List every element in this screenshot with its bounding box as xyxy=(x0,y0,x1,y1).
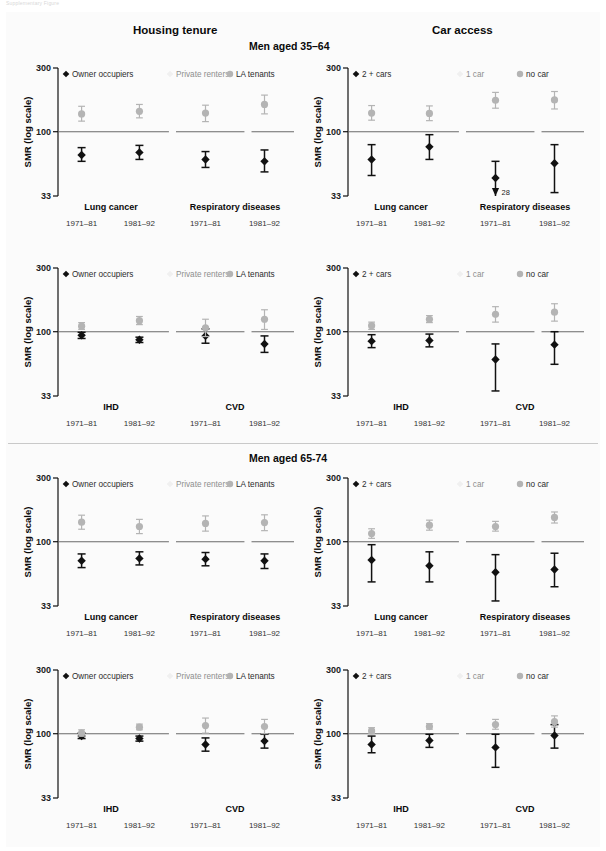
marker-circle xyxy=(261,316,268,323)
marker-circle xyxy=(261,101,268,108)
marker-diamond xyxy=(367,155,375,163)
legend-marker-diamond xyxy=(63,71,70,78)
period-label: 1971–81 xyxy=(480,629,512,638)
group-label: Respiratory diseases xyxy=(480,612,571,622)
period-label: 1981–92 xyxy=(539,419,571,428)
data-point-group xyxy=(261,719,268,733)
marker-circle xyxy=(78,519,85,526)
legend-marker-circle xyxy=(517,673,523,679)
data-point-group xyxy=(260,150,268,172)
period-label: 1981–92 xyxy=(124,419,156,428)
marker-diamond xyxy=(135,148,143,156)
marker-diamond xyxy=(491,743,499,751)
marker-circle xyxy=(492,721,499,728)
data-point-group xyxy=(136,104,143,117)
y-tick-label: 300 xyxy=(326,473,341,483)
data-point-group xyxy=(551,304,558,321)
marker-diamond xyxy=(550,565,558,573)
y-tick-label: 33 xyxy=(41,191,51,201)
data-point-group xyxy=(368,529,375,539)
age-group-title-35-64: Men aged 35–64 xyxy=(249,40,330,52)
marker-circle xyxy=(492,97,499,104)
period-label: 1971–81 xyxy=(66,219,98,228)
y-tick-label: 100 xyxy=(326,127,341,137)
data-point-group xyxy=(261,310,268,330)
period-label: 1971–81 xyxy=(480,419,512,428)
marker-circle xyxy=(136,108,143,115)
group-label: Respiratory diseases xyxy=(190,612,281,622)
data-point-group xyxy=(135,145,143,159)
data-point-group xyxy=(551,716,558,727)
marker-diamond xyxy=(135,554,143,562)
data-point-group xyxy=(492,307,499,322)
marker-diamond xyxy=(550,340,558,348)
legend-marker-diamond xyxy=(63,481,70,488)
data-point-group xyxy=(135,336,143,344)
legend-marker-diamond xyxy=(353,673,360,680)
legend-marker-circle xyxy=(517,71,523,77)
legend-marker-diamond xyxy=(457,71,464,78)
legend-marker-circle xyxy=(517,271,523,277)
period-label: 1971–81 xyxy=(66,821,98,830)
data-point-group xyxy=(425,552,433,582)
data-point-group: 28 xyxy=(491,161,510,197)
period-label: 1981–92 xyxy=(414,821,446,830)
data-point-group xyxy=(426,520,433,530)
y-tick-label: 33 xyxy=(41,601,51,611)
marker-diamond xyxy=(425,562,433,570)
marker-diamond xyxy=(425,336,433,344)
marker-diamond xyxy=(260,557,268,565)
legend-marker-diamond xyxy=(457,481,464,488)
data-point-group xyxy=(550,332,558,365)
legend-label: 1 car xyxy=(466,480,484,489)
marker-diamond xyxy=(491,568,499,576)
legend-label: LA tenants xyxy=(236,480,275,489)
legend-marker-diamond xyxy=(167,71,174,78)
legend-label: 2 + cars xyxy=(362,270,391,279)
y-tick-label: 100 xyxy=(36,327,51,337)
legend-marker-circle xyxy=(227,673,233,679)
marker-circle xyxy=(368,322,375,329)
y-tick-label: 33 xyxy=(41,793,51,803)
legend-label: no car xyxy=(526,70,549,79)
marker-diamond xyxy=(550,159,558,167)
group-label: Lung cancer xyxy=(374,202,428,212)
y-tick-label: 300 xyxy=(36,63,51,73)
data-point-group xyxy=(368,106,375,121)
legend-marker-diamond xyxy=(167,673,174,680)
y-tick-label: 33 xyxy=(331,391,341,401)
group-label: Lung cancer xyxy=(84,202,138,212)
marker-circle xyxy=(551,718,558,725)
legend-label: 2 + cars xyxy=(362,70,391,79)
data-point-group xyxy=(261,95,268,114)
data-point-group xyxy=(367,145,375,176)
y-axis-title: SMR (log scale) xyxy=(22,507,33,578)
y-tick-label: 100 xyxy=(326,729,341,739)
data-point-group xyxy=(78,515,85,529)
data-point-group xyxy=(550,145,558,193)
y-tick-label: 100 xyxy=(36,729,51,739)
marker-diamond xyxy=(491,174,499,182)
data-point-group xyxy=(367,335,375,348)
legend-marker-diamond xyxy=(63,673,70,680)
marker-circle xyxy=(202,520,209,527)
data-point-group xyxy=(550,553,558,587)
legend-marker-diamond xyxy=(167,271,174,278)
legend-label: Owner occupiers xyxy=(72,480,133,489)
chart-panel-p3: 30010033SMR (log scale)Owner occupiersPr… xyxy=(22,258,302,436)
period-label: 1971–81 xyxy=(356,419,388,428)
legend-label: Private renters xyxy=(176,672,229,681)
period-label: 1971–81 xyxy=(190,629,222,638)
legend-label: Private renters xyxy=(176,70,229,79)
data-point-group xyxy=(425,135,433,160)
marker-circle xyxy=(492,523,499,530)
y-tick-label: 33 xyxy=(331,793,341,803)
marker-circle xyxy=(368,530,375,537)
y-tick-label: 100 xyxy=(326,327,341,337)
legend-marker-circle xyxy=(517,481,523,487)
data-point-group xyxy=(491,555,499,601)
figure-page: Supplementary Figure Housing tenure Car … xyxy=(0,0,606,851)
chart-panel-p2: 30010033SMR (log scale)2 + cars1 carno c… xyxy=(312,58,592,236)
y-tick-label: 33 xyxy=(41,391,51,401)
y-axis-title: SMR (log scale) xyxy=(312,507,323,578)
